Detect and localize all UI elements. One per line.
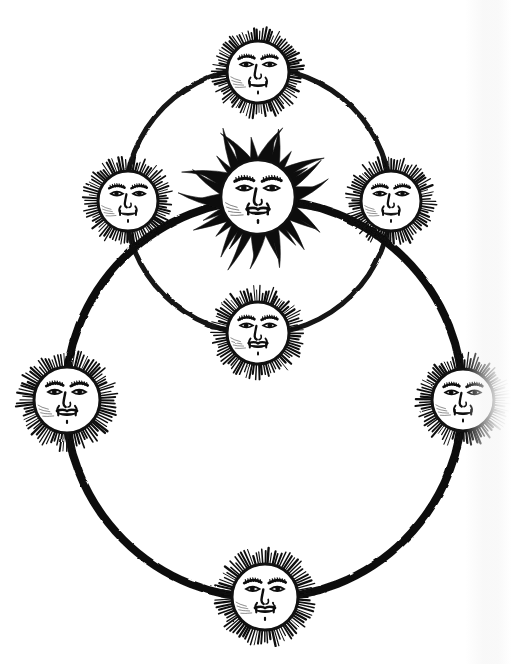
diagram-canvas: Central SunTop SunUpper Left SunUpper Ri…: [0, 0, 511, 664]
woodcut-figure: Central SunTop SunUpper Left SunUpper Ri…: [0, 0, 511, 664]
